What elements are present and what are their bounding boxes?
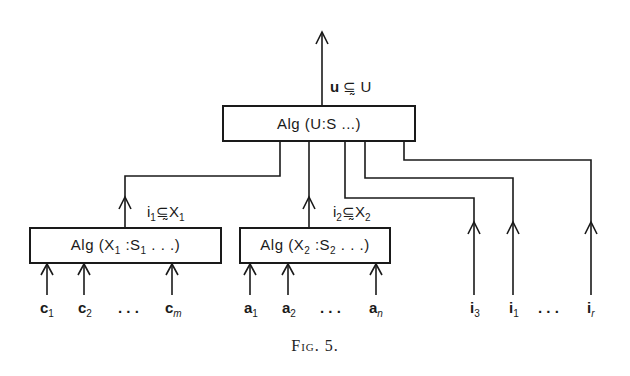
input-i1: i1 bbox=[509, 299, 519, 319]
alg-u-label: Alg (U:S ...) bbox=[277, 115, 361, 132]
alg-x2-label: Alg (X2 :S2 . . .) bbox=[260, 236, 369, 256]
middle-output-label: i2⊆̰X2 bbox=[333, 203, 370, 223]
alg-x1-box: Alg (X1 :S1 . . .) bbox=[29, 227, 222, 264]
alg-x2-box: Alg (X2 :S2 . . .) bbox=[239, 227, 391, 264]
input-ir: ir bbox=[587, 299, 595, 319]
fig5-diagram: Alg (U:S ...) u ⊆̰ U Alg (X1 :S1 . . .) … bbox=[0, 0, 630, 376]
alg-u-box: Alg (U:S ...) bbox=[222, 105, 416, 142]
input-a2: a2 bbox=[282, 299, 296, 319]
input-c1: c1 bbox=[40, 299, 54, 319]
input-ellipsis-i: . . . bbox=[538, 299, 559, 316]
input-ellipsis-a: . . . bbox=[320, 299, 341, 316]
left-output-label: i1⊆̰X1 bbox=[147, 203, 184, 223]
input-a1: a1 bbox=[244, 299, 258, 319]
input-cm: cm bbox=[165, 299, 182, 319]
alg-x1-label: Alg (X1 :S1 . . .) bbox=[71, 236, 180, 256]
top-output-label: u ⊆̰ U bbox=[330, 78, 371, 96]
input-c2: c2 bbox=[78, 299, 92, 319]
input-ellipsis-c: . . . bbox=[118, 299, 139, 316]
input-i3: i3 bbox=[470, 299, 480, 319]
input-an: an bbox=[369, 299, 383, 319]
figure-caption: Fig. 5. bbox=[0, 337, 630, 355]
connector-lines bbox=[0, 0, 630, 376]
